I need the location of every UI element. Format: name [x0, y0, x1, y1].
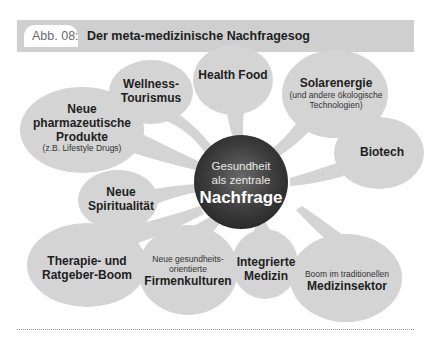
label-biotech: Biotech: [360, 146, 404, 160]
dotted-divider: [17, 329, 414, 330]
center-line-3: Nachfrage: [199, 188, 282, 208]
bubble-health-food: [193, 45, 273, 148]
bubble-medizinsektor: [290, 206, 402, 322]
center-label: Gesundheit als zentrale Nachfrage: [199, 160, 282, 208]
label-health-food: Health Food: [198, 69, 267, 83]
label-wellness: Wellness- Tourismus: [121, 78, 181, 106]
label-pharma: Neue pharmazeutische Produkte (z.B. Life…: [33, 103, 131, 154]
label-therapie: Therapie- und Ratgeber-Boom: [42, 255, 132, 283]
label-spiritualitaet: Neue Spiritualität: [88, 186, 154, 214]
label-medizinsektor: Boom im traditionellen Medizinsektor: [305, 270, 389, 294]
label-firmenkulturen: Neue gesundheits- orientierte Firmenkult…: [144, 255, 231, 288]
center-line-2: als zentrale: [199, 174, 282, 188]
label-integrierte-medizin: Integrierte Medizin: [237, 256, 296, 284]
label-solarenergie: Solarenergie (und andere ökologische Tec…: [289, 77, 382, 110]
center-line-1: Gesundheit: [199, 160, 282, 174]
